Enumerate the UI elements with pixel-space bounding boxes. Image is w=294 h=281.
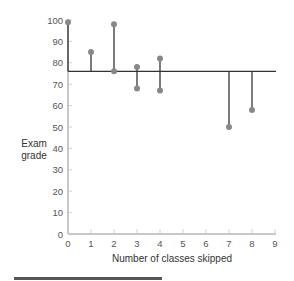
- x-tick-label: 9: [272, 238, 277, 249]
- data-point: [65, 19, 71, 25]
- y-tick-label: 30: [52, 164, 63, 175]
- y-tick-label: 0: [58, 229, 63, 240]
- y-tick-label: 90: [52, 36, 63, 47]
- x-tick-label: 2: [111, 238, 116, 249]
- divider-bar: [14, 277, 162, 280]
- y-tick-label: 20: [52, 186, 63, 197]
- data-point: [88, 49, 94, 55]
- y-tick-label: 40: [52, 143, 63, 154]
- data-point: [249, 107, 255, 113]
- data-point: [111, 68, 117, 74]
- x-tick-label: 0: [65, 238, 70, 249]
- y-tick-label: 100: [47, 15, 63, 26]
- residual-lines: [68, 22, 252, 127]
- y-tick-label: 60: [52, 100, 63, 111]
- y-tick-label: 10: [52, 207, 63, 218]
- y-axis-title-line1: Exam: [21, 138, 47, 149]
- x-axis-title: Number of classes skipped: [112, 253, 232, 264]
- y-tick-label: 50: [52, 122, 63, 133]
- x-tick-label: 1: [88, 238, 93, 249]
- data-point: [157, 56, 163, 62]
- data-point: [226, 124, 232, 130]
- x-tick-label: 5: [180, 238, 185, 249]
- x-tick-label: 4: [157, 238, 162, 249]
- x-tick-label: 3: [134, 238, 139, 249]
- x-tick-label: 8: [249, 238, 254, 249]
- x-tick-label: 6: [203, 238, 208, 249]
- residual-plot: 0102030405060708090100 0123456789 Exam g…: [0, 0, 294, 281]
- data-point: [157, 88, 163, 94]
- x-tick-label: 7: [226, 238, 231, 249]
- y-tick-label: 70: [52, 79, 63, 90]
- x-axis-ticks: 0123456789: [65, 229, 277, 249]
- y-axis-title-line2: grade: [21, 150, 47, 161]
- data-point: [134, 85, 140, 91]
- y-tick-label: 80: [52, 57, 63, 68]
- data-point: [111, 21, 117, 27]
- data-point: [134, 64, 140, 70]
